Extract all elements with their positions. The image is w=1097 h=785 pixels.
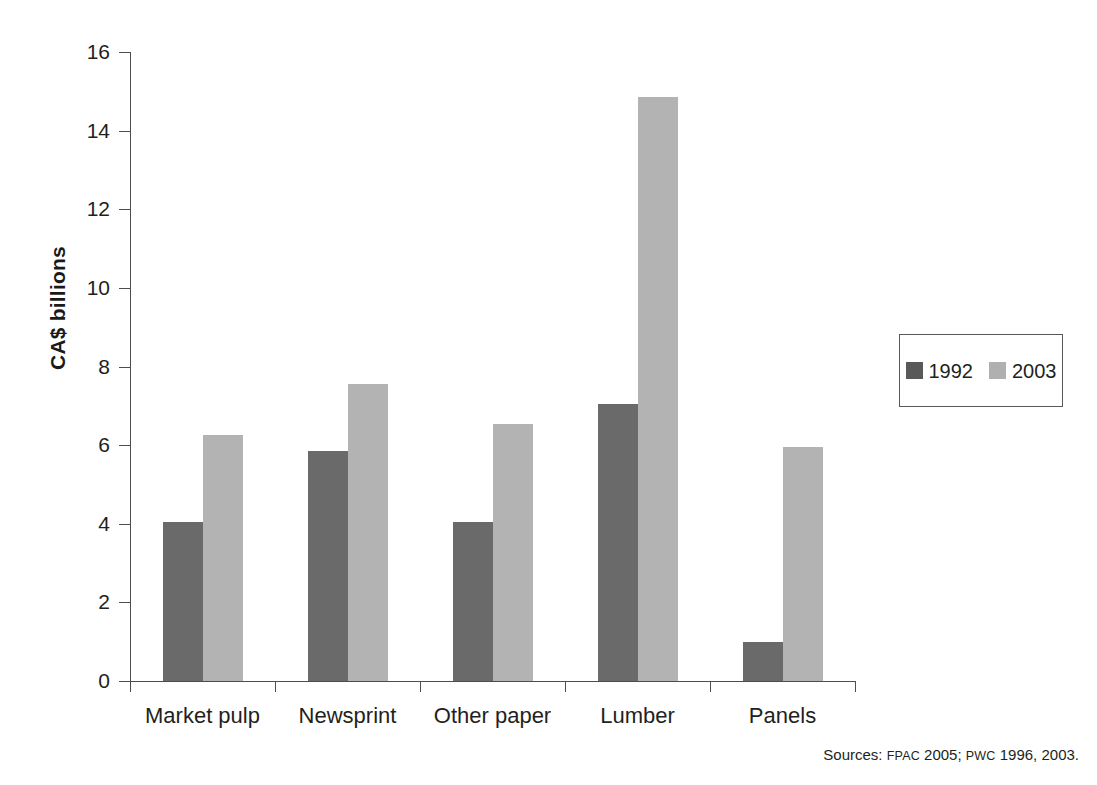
legend-label-2003: 2003	[1012, 361, 1057, 381]
y-axis-tick-label: 8	[98, 355, 110, 379]
y-axis-tick: 10	[119, 288, 130, 289]
x-axis-tick	[130, 681, 131, 692]
y-axis-tick: 16	[119, 52, 130, 53]
y-axis-tick-label: 12	[87, 197, 110, 221]
y-axis-tick-label: 2	[98, 590, 110, 614]
x-axis-label-lumber: Lumber	[565, 703, 710, 729]
x-axis-label-other-paper: Other paper	[420, 703, 565, 729]
bar-panels-1992	[743, 642, 783, 681]
x-axis-label-panels: Panels	[710, 703, 855, 729]
x-axis-tick	[420, 681, 421, 692]
y-axis-line	[130, 52, 131, 681]
bar-panels-2003	[783, 447, 823, 681]
source-year-2005: 2005;	[924, 746, 962, 763]
legend-label-1992: 1992	[929, 361, 974, 381]
y-axis-tick: 12	[119, 209, 130, 210]
source-acronym-fpac: FPAC	[887, 749, 920, 763]
bar-newsprint-1992	[308, 451, 348, 681]
bar-lumber-2003	[638, 97, 678, 681]
y-axis-tick: 2	[119, 602, 130, 603]
legend-entry-2003: 2003	[989, 361, 1057, 381]
x-axis-tick	[855, 681, 856, 692]
x-axis-line	[130, 681, 855, 682]
y-axis-tick: 4	[119, 524, 130, 525]
y-axis-tick-label: 16	[87, 40, 110, 64]
series-2003-swatch	[989, 362, 1006, 379]
bar-newsprint-2003	[348, 384, 388, 681]
y-axis-tick: 0	[119, 681, 130, 682]
bar-chart-figure: CA$ billions 0246810121416 Market pulpNe…	[0, 0, 1097, 785]
y-axis-tick: 14	[119, 131, 130, 132]
x-axis-label-market-pulp: Market pulp	[130, 703, 275, 729]
x-axis-tick	[710, 681, 711, 692]
legend-entry-1992: 1992	[906, 361, 974, 381]
y-axis-tick-label: 14	[87, 119, 110, 143]
bar-market-pulp-2003	[203, 435, 243, 681]
source-prefix: Sources:	[823, 746, 882, 763]
source-note: Sources: FPAC 2005; PWC 1996, 2003.	[823, 746, 1079, 763]
source-year-1996-2003: 1996, 2003.	[1000, 746, 1079, 763]
y-axis-tick: 6	[119, 445, 130, 446]
x-axis-tick	[275, 681, 276, 692]
legend-entries: 19922003	[900, 361, 1062, 381]
source-acronym-pwc: PWC	[966, 749, 996, 763]
plot-area: 0246810121416 Market pulpNewsprintOther …	[130, 52, 855, 681]
x-axis-label-newsprint: Newsprint	[275, 703, 420, 729]
y-axis-tick-label: 10	[87, 276, 110, 300]
bar-market-pulp-1992	[163, 522, 203, 681]
chart-legend: 19922003	[899, 334, 1063, 407]
y-axis-tick: 8	[119, 367, 130, 368]
y-axis-tick-label: 4	[98, 512, 110, 536]
bar-lumber-1992	[598, 404, 638, 681]
x-axis-tick	[565, 681, 566, 692]
bar-other-paper-1992	[453, 522, 493, 681]
bar-other-paper-2003	[493, 424, 533, 681]
y-axis-title: CA$ billions	[46, 198, 70, 418]
y-axis-tick-label: 6	[98, 433, 110, 457]
y-axis-tick-label: 0	[98, 669, 110, 693]
series-1992-swatch	[906, 362, 923, 379]
